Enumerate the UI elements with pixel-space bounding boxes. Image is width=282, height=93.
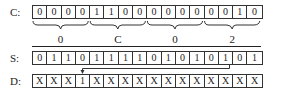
cell-d-6: X bbox=[119, 75, 133, 87]
cell-d-14: X bbox=[233, 75, 247, 87]
row-d: X X X 1 X X X X X X X X X X X X bbox=[32, 74, 263, 88]
cell-d-4: X bbox=[90, 75, 104, 87]
cell-d-15: X bbox=[247, 75, 261, 87]
cell-d-7: X bbox=[133, 75, 147, 87]
cell-d-10: X bbox=[176, 75, 190, 87]
cell-d-13: X bbox=[219, 75, 233, 87]
row-label-d: D: bbox=[10, 74, 28, 88]
cell-d-8: X bbox=[147, 75, 161, 87]
cell-d-2: X bbox=[62, 75, 76, 87]
cell-d-11: X bbox=[190, 75, 204, 87]
cell-d-1: X bbox=[47, 75, 61, 87]
cell-d-12: X bbox=[205, 75, 219, 87]
cell-d-3: 1 bbox=[76, 75, 90, 87]
cell-d-5: X bbox=[104, 75, 118, 87]
cell-d-0: X bbox=[33, 75, 47, 87]
cell-d-9: X bbox=[162, 75, 176, 87]
